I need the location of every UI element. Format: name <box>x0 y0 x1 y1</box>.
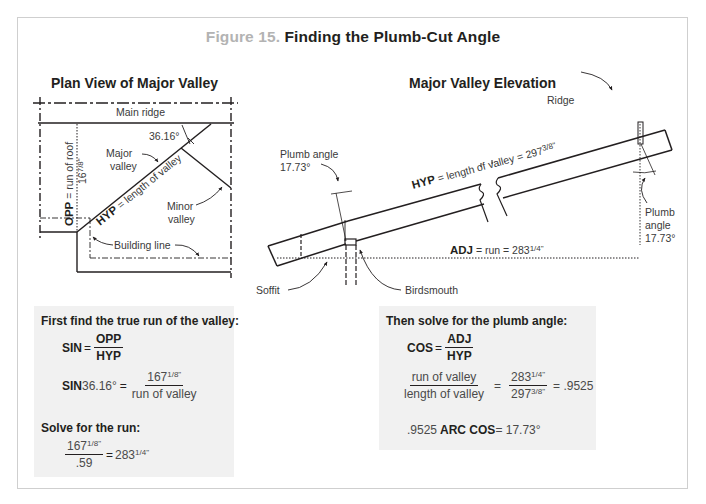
arccos-result: .9525 ARC COS = 17.73° <box>407 423 541 437</box>
minor-valley-label-2: valley <box>168 213 196 225</box>
plumb-angle-left-label-1: Plumb angle <box>280 148 339 160</box>
plumb-angle-left-label-2: 17.73° <box>280 161 310 173</box>
ridge-label: Ridge <box>547 94 575 106</box>
plumb-angle-right-label-2: angle <box>645 219 671 231</box>
sin-angle-equation: SIN 36.16° = 1671/8" run of valley <box>62 370 202 401</box>
elevation-labels: Ridge Plumb angle 17.73° HYP = length of… <box>256 94 675 296</box>
opp-value: 167/8" <box>76 158 88 184</box>
sin-definition: SIN = OPP HYP <box>62 332 126 363</box>
adj-label: ADJ = run = 2831/4" <box>450 244 544 256</box>
cos-definition: COS = ADJ HYP <box>407 332 477 363</box>
plan-view-labels: Main ridge 36.16° Major valley OPP = run… <box>63 106 196 251</box>
run-result-equation: 1671/8" .59 = 2831/4" <box>62 439 149 470</box>
opp-over-hyp: OPP HYP <box>94 332 123 363</box>
birdsmouth-label: Birdsmouth <box>405 284 458 296</box>
opp-label: OPP = run of roof <box>63 142 75 226</box>
elevation-drawing <box>268 72 672 290</box>
major-valley-label-2: valley <box>110 160 138 172</box>
valley-angle-label: 36.16° <box>149 130 179 142</box>
cos-value-equation: run of valley length of valley = 2831/4"… <box>399 370 593 401</box>
building-line-label: Building line <box>114 239 171 251</box>
plumb-angle-right-label-3: 17.73° <box>645 232 675 244</box>
hyp-label-elevation: HYP = length of valley = 2973/8" <box>410 141 557 191</box>
main-ridge-label: Main ridge <box>116 106 165 118</box>
true-run-formula-box: First find the true run of the valley: S… <box>34 306 234 477</box>
solve-run-heading: Solve for the run: <box>41 421 140 435</box>
plumb-angle-right-label-1: Plumb <box>645 206 675 218</box>
true-run-heading: First find the true run of the valley: <box>41 314 239 328</box>
plumb-angle-formula-box: Then solve for the plumb angle: COS = AD… <box>379 306 596 450</box>
opp-value-over-run: 1671/8" run of valley <box>130 370 199 401</box>
adj-over-hyp: ADJ HYP <box>445 332 474 363</box>
plumb-angle-heading: Then solve for the plumb angle: <box>386 314 567 328</box>
minor-valley-label-1: Minor <box>167 200 194 212</box>
major-valley-label-1: Major <box>106 147 133 159</box>
soffit-label: Soffit <box>256 284 280 296</box>
